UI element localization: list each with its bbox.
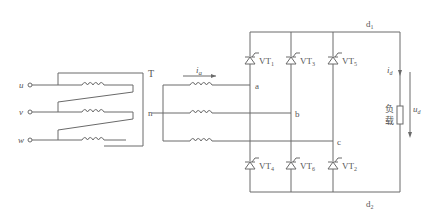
current-ia-label: ia [196, 65, 203, 77]
input-terminals [28, 83, 82, 142]
vt4-label: VT4 [259, 161, 274, 172]
node-c-label: c [337, 137, 341, 147]
input-label-u: u [19, 80, 24, 90]
vt3-label: VT3 [300, 56, 315, 67]
bridge-rectifier-diagram: u v w T n ia a b c VT1 VT3 VT5 VT4 VT6 V… [0, 0, 434, 218]
vt1-label: VT1 [259, 56, 274, 67]
node-b-label: b [295, 109, 300, 119]
transformer-primary [58, 73, 143, 146]
labels: u v w T n ia a b c VT1 VT3 VT5 VT4 VT6 V… [18, 19, 422, 210]
input-label-v: v [19, 107, 23, 117]
rail-d1-label: d1 [366, 19, 374, 30]
load-label-2: 载 [385, 115, 394, 126]
vt6-label: VT6 [300, 161, 315, 172]
node-a-label: a [255, 81, 259, 91]
load-voltage-label: ud [413, 104, 422, 115]
neutral-label: n [148, 108, 153, 118]
transformer-secondary [152, 74, 333, 141]
vt5-label: VT5 [342, 56, 357, 67]
load [397, 70, 412, 138]
transformer-label: T [148, 68, 154, 79]
input-label-w: w [18, 135, 24, 145]
load-label-1: 负 [385, 103, 394, 114]
rail-d2-label: d2 [366, 199, 374, 210]
vt2-label: VT2 [342, 161, 357, 172]
load-current-label: id [387, 65, 394, 76]
